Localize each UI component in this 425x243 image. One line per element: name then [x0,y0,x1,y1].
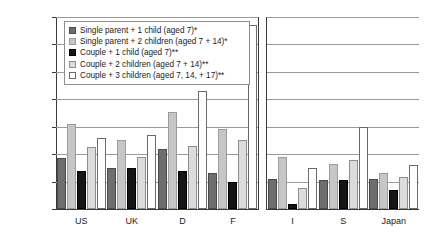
bar-f-series-2 [228,182,237,209]
legend-item-0: Single parent + 1 child (aged 7)* [69,25,244,36]
bar-japan-series-1 [379,173,388,209]
bar-d-series-0 [158,149,167,209]
bar-d-series-3 [188,146,197,209]
legend: Single parent + 1 child (aged 7)*Single … [64,21,250,85]
legend-swatch-icon [69,38,76,45]
broken-axis-gap [258,17,267,210]
bar-i-series-3 [298,188,307,209]
bar-group-s [318,17,369,209]
bar-uk-series-0 [107,168,116,209]
bar-s-series-0 [319,180,328,209]
legend-item-label: Couple + 3 children (aged 7, 14, + 17)** [80,71,224,80]
bar-japan-series-4 [409,165,418,209]
bar-us-series-1 [67,124,76,209]
legend-item-label: Couple + 2 children (aged 7 + 14)** [80,60,208,69]
bar-uk-series-1 [117,140,126,209]
bar-s-series-2 [339,180,348,209]
bar-uk-series-2 [127,168,136,209]
legend-item-2: Couple + 1 child (aged 7)** [69,47,244,58]
bar-i-series-4 [308,168,317,209]
bar-d-series-1 [168,112,177,209]
bar-group-i [267,17,318,209]
bar-uk-series-3 [137,157,146,209]
bar-us-series-2 [77,171,86,209]
legend-swatch-icon [69,61,76,68]
y-axis-tick-mark [52,209,56,210]
legend-item-1: Single parent + 2 children (aged 7 + 14)… [69,36,244,47]
bar-d-series-2 [178,171,187,209]
bar-group-japan [368,17,419,209]
legend-swatch-icon [69,72,76,79]
legend-item-4: Couple + 3 children (aged 7, 14, + 17)** [69,70,244,81]
legend-swatch-icon [69,27,76,34]
bar-s-series-4 [359,127,368,209]
bar-i-series-0 [268,179,277,209]
legend-item-label: Single parent + 2 children (aged 7 + 14)… [80,37,227,46]
bar-f-series-1 [218,129,227,209]
bar-japan-series-2 [389,190,398,209]
x-axis-line [56,209,419,210]
bar-s-series-1 [329,164,338,209]
bar-f-series-3 [238,140,247,209]
legend-item-label: Couple + 1 child (aged 7)** [80,48,178,57]
bar-us-series-0 [57,158,66,209]
bar-s-series-3 [349,160,358,209]
bar-chart: Child-related cash benefits (in € per mo… [0,0,425,243]
bar-japan-series-0 [369,179,378,209]
legend-item-label: Single parent + 1 child (aged 7)* [80,26,197,35]
bar-d-series-4 [198,91,207,209]
x-axis-label-f: F [203,216,263,226]
legend-item-3: Couple + 2 children (aged 7 + 14)** [69,59,244,70]
bar-us-series-3 [87,147,96,209]
bar-us-series-4 [97,138,106,209]
bar-i-series-2 [288,204,297,209]
bar-i-series-1 [278,157,287,209]
bar-japan-series-3 [399,177,408,209]
bar-f-series-0 [208,173,217,209]
x-axis-label-japan: Japan [364,216,424,226]
bar-uk-series-4 [147,135,156,209]
legend-swatch-icon [69,49,76,56]
